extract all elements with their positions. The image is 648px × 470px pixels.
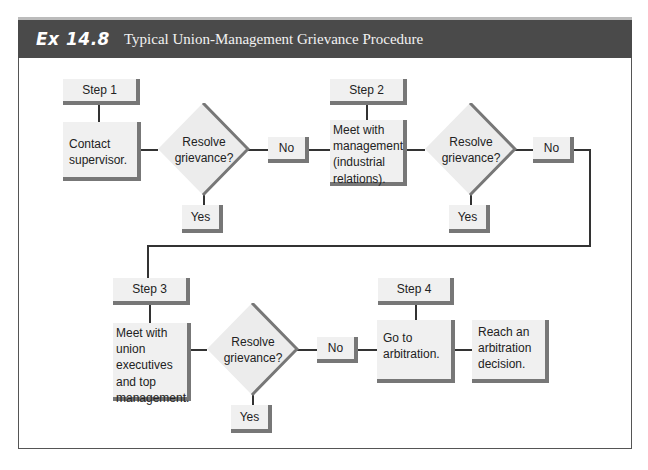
- step-2-action: Meet with management (industrial relatio…: [330, 120, 407, 186]
- connector: [190, 349, 207, 351]
- connector: [573, 149, 590, 151]
- step-3-yes: Yes: [231, 405, 272, 433]
- step-1-no: No: [268, 137, 309, 163]
- step-1-decision: Resolve grievance?: [158, 103, 250, 197]
- step-1-action: Contact supervisor.: [63, 122, 141, 181]
- step-3-no: No: [317, 337, 358, 363]
- step-4-action: Go to arbitration.: [377, 320, 455, 383]
- exhibit-title: Typical Union-Management Grievance Proce…: [124, 31, 423, 48]
- exhibit-header: Ex 14.8 Typical Union-Management Grievan…: [18, 17, 632, 58]
- step-2-no: No: [533, 137, 574, 163]
- step-1-yes: Yes: [182, 205, 223, 233]
- connector: [98, 104, 100, 122]
- step-2-yes: Yes: [449, 205, 490, 233]
- step-1-label: Step 1: [63, 79, 140, 105]
- connector: [406, 149, 425, 151]
- step-4-outcome: Reach an arbitration decision.: [472, 320, 549, 383]
- step-4-label: Step 4: [378, 278, 454, 305]
- step-3-label: Step 3: [113, 278, 190, 305]
- step-3-decision: Resolve grievance?: [207, 303, 299, 397]
- step-2-label: Step 2: [330, 79, 407, 105]
- exhibit-number: Ex 14.8: [36, 29, 110, 49]
- connector: [366, 104, 368, 120]
- step-3-action: Meet with union executives and top manag…: [113, 323, 191, 401]
- connector: [149, 304, 151, 323]
- connector: [589, 149, 591, 246]
- connector: [357, 349, 377, 351]
- connector: [147, 245, 149, 278]
- connector: [454, 349, 472, 351]
- connector: [515, 149, 533, 151]
- connector: [248, 149, 268, 151]
- connector: [140, 149, 158, 151]
- connector: [415, 304, 417, 320]
- connector: [308, 149, 330, 151]
- step-2-decision: Resolve grievance?: [425, 103, 517, 197]
- connector: [147, 245, 591, 247]
- connector: [297, 349, 317, 351]
